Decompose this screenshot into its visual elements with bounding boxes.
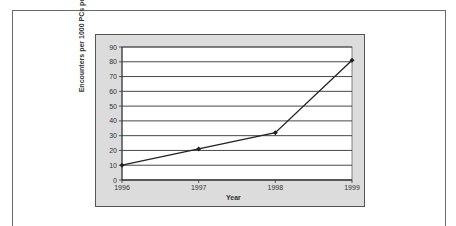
y-tick-label: 20: [109, 147, 117, 154]
y-tick-label: 60: [109, 88, 117, 95]
line-chart: 01020304050607080901996199719981999: [0, 0, 456, 226]
x-tick-label: 1996: [114, 184, 130, 191]
y-tick-label: 70: [109, 73, 117, 80]
y-tick-label: 80: [109, 58, 117, 65]
y-tick-label: 0: [113, 177, 117, 184]
y-tick-label: 40: [109, 117, 117, 124]
x-tick-label: 1997: [191, 184, 207, 191]
x-tick-label: 1999: [344, 184, 360, 191]
x-axis-title: Year: [226, 194, 241, 201]
plot-area: [122, 47, 352, 180]
x-tick-label: 1998: [268, 184, 284, 191]
y-tick-label: 90: [109, 44, 117, 51]
y-tick-label: 10: [109, 162, 117, 169]
y-tick-label: 30: [109, 132, 117, 139]
y-tick-label: 50: [109, 103, 117, 110]
y-axis-title: Encounters per 1000 PCs per month: [78, 0, 85, 112]
